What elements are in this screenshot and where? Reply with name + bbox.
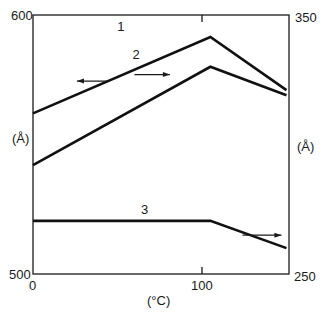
x-tick-0: 0 xyxy=(29,279,36,292)
x-axis-title: (°C) xyxy=(147,294,170,307)
y-right-axis-title: (Å) xyxy=(297,140,314,153)
series-1-line xyxy=(33,37,287,113)
y-left-tick-500: 500 xyxy=(9,268,31,281)
series-3-label: 3 xyxy=(141,202,148,217)
series-2-label: 2 xyxy=(132,47,139,62)
y-left-axis-title: (Å) xyxy=(12,132,29,145)
y-right-tick-350: 350 xyxy=(295,11,317,24)
series-2-line xyxy=(33,67,287,165)
series-1-label: 1 xyxy=(117,19,124,34)
y-right-tick-250: 250 xyxy=(294,270,316,283)
line-chart: 123 xyxy=(0,0,324,313)
arrowhead-icon xyxy=(77,79,84,84)
series-lines xyxy=(33,37,287,248)
arrowhead-icon xyxy=(274,233,281,238)
x-tick-100: 100 xyxy=(191,279,213,292)
y-left-tick-600: 600 xyxy=(11,9,33,22)
arrowhead-icon xyxy=(163,72,170,77)
series-3-line xyxy=(33,221,287,248)
